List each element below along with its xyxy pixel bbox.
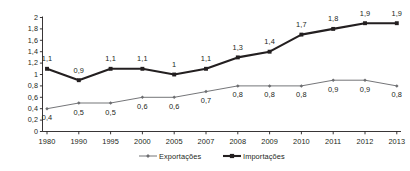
data-point-label: 0,8 [224, 91, 252, 98]
data-point-label: 1,7 [287, 21, 315, 28]
data-point-label: 1,8 [319, 15, 347, 22]
legend-diamond-marker-icon [138, 150, 158, 162]
series-marker [45, 107, 49, 111]
y-axis-tick-label: 1,4 [28, 48, 38, 55]
series-marker [140, 67, 144, 71]
y-axis-tick-label: 0,6 [28, 94, 38, 101]
series-marker [77, 101, 81, 105]
series-marker [77, 78, 81, 82]
legend-square-marker-icon [222, 150, 242, 162]
data-point-label: 0,6 [160, 103, 188, 110]
x-axis-tick-label: 2005 [158, 138, 190, 145]
series-marker [268, 84, 272, 88]
y-axis-tick-label: 0 [34, 128, 38, 135]
data-point-label: 0,8 [287, 91, 315, 98]
series-marker [204, 67, 208, 71]
x-axis-tick-label: 2008 [222, 138, 254, 145]
data-point-label: 1,1 [97, 55, 125, 62]
data-point-label: 1,9 [383, 10, 410, 17]
legend-marker [230, 154, 234, 158]
series-marker [141, 96, 145, 100]
series-marker [109, 67, 113, 71]
y-axis-tick-label: 2 [34, 14, 38, 21]
line-chart: 00,20,40,60,811,21,41,61,82 198019901995… [0, 0, 410, 171]
x-axis-tick-label: 2013 [381, 138, 410, 145]
data-point-label: 0,8 [383, 91, 410, 98]
data-point-label: 0,9 [351, 86, 379, 93]
series-marker [300, 84, 304, 88]
data-point-label: 1 [160, 61, 188, 68]
series-marker [109, 101, 113, 105]
series-line-1 [47, 80, 397, 109]
series-marker [299, 33, 303, 37]
series-marker [395, 21, 399, 25]
series-marker [395, 84, 399, 88]
series-marker [204, 90, 208, 94]
series-marker [331, 27, 335, 31]
y-axis-tick-label: 0,8 [28, 82, 38, 89]
series-marker [363, 78, 367, 82]
data-point-label: 1,1 [192, 55, 220, 62]
x-axis-tick-label: 2010 [285, 138, 317, 145]
series-marker [236, 55, 240, 59]
legend-label: Exportações [159, 153, 201, 160]
data-point-label: 0,5 [65, 109, 93, 116]
series-marker [45, 67, 49, 71]
data-point-label: 1,3 [224, 44, 252, 51]
series-marker [363, 21, 367, 25]
data-point-label: 1,1 [128, 55, 156, 62]
y-axis-tick-label: 0,4 [28, 105, 38, 112]
series-marker [268, 50, 272, 54]
x-axis-tick-label: 1995 [95, 138, 127, 145]
data-point-label: 0,9 [65, 67, 93, 74]
y-axis-tick-label: 1,6 [28, 37, 38, 44]
x-axis-tick-label: 1990 [63, 138, 95, 145]
data-point-label: 0,5 [97, 109, 125, 116]
y-axis-tick-label: 1 [34, 71, 38, 78]
x-axis-tick-label: 1980 [31, 138, 63, 145]
data-point-label: 0,7 [192, 97, 220, 104]
legend-marker [146, 154, 150, 158]
data-point-label: 0,9 [319, 86, 347, 93]
x-axis-tick-label: 2011 [317, 138, 349, 145]
data-point-label: 0,8 [256, 91, 284, 98]
data-point-label: 1,9 [351, 10, 379, 17]
x-axis-tick-label: 2000 [126, 138, 158, 145]
x-axis-tick-label: 2012 [349, 138, 381, 145]
data-point-label: 1,4 [256, 38, 284, 45]
series-marker [331, 78, 335, 82]
series-marker [172, 96, 176, 100]
x-axis-tick-label: 2007 [190, 138, 222, 145]
y-axis-tick-label: 1,8 [28, 25, 38, 32]
series-marker [172, 73, 176, 77]
data-point-label: 0,4 [33, 114, 61, 121]
series-line-2 [47, 23, 397, 80]
series-marker [236, 84, 240, 88]
x-axis-tick-label: 2009 [254, 138, 286, 145]
data-point-label: 0,6 [128, 103, 156, 110]
data-point-label: 1,1 [33, 55, 61, 62]
legend-label: Importações [243, 153, 285, 160]
